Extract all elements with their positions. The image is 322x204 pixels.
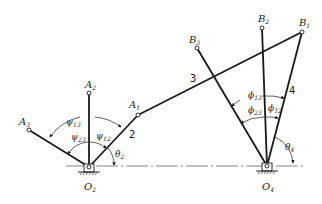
coupler-link [138,32,302,115]
joint-B1 [300,30,304,34]
joint-A1 [136,113,140,117]
arc-phi23 [241,117,264,123]
label-O2: O2 [84,181,96,193]
label-phi12: ϕ12 [268,103,282,114]
label-link-4: 4 [289,85,295,96]
rocker-position-2 [262,28,267,166]
label-A2: A2 [84,79,96,91]
ground-pivot-O2 [78,164,100,175]
label-O4: O4 [262,181,274,193]
label-theta4: θ4 [285,142,294,153]
label-psi12: ψ12 [96,131,111,142]
joint-B2 [260,26,264,30]
label-psi23: ψ23 [71,132,86,143]
label-B3: B3 [188,34,200,46]
joint-B3 [195,46,199,50]
label-A1: A1 [128,99,140,111]
arc-psi13 [95,117,121,127]
rocker-position-3 [197,48,267,166]
linkage-diagram: A1 A2 A3 B1 B2 B3 O2 O4 2 3 4 ψ13 ψ23 ψ1… [0,0,322,204]
arc-phi12 [266,117,278,118]
angle-arcs-O4 [232,96,293,163]
arc-psi12 [90,142,106,148]
joint-A2 [87,91,91,95]
label-link-3: 3 [190,73,196,84]
ground-pivot-O4 [256,163,278,174]
label-B1: B1 [298,17,310,29]
joint-A3 [27,128,31,132]
arc-theta2 [108,148,114,165]
label-link-2: 2 [129,129,135,140]
label-B2: B2 [257,13,269,25]
arc-psi23 [68,142,88,154]
label-theta2: θ2 [115,149,124,160]
label-phi13: ϕ13 [248,90,262,101]
label-phi23: ϕ23 [248,105,262,116]
label-A3: A3 [18,116,30,128]
arc-phi13-left [232,100,240,106]
